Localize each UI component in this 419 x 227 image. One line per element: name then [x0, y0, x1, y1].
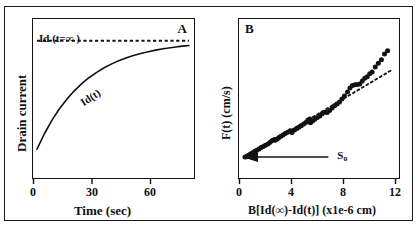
panel-b-letter: B — [245, 21, 254, 37]
s0-arrow — [242, 152, 328, 162]
scatter-point — [342, 93, 347, 98]
panel-b-xaxis-title: B[Id(∞)-Id(t)] (x1e-6 cm) — [205, 203, 419, 218]
scatter-point — [385, 48, 390, 53]
scatter-point — [370, 69, 375, 74]
asymptote-label: Id (t=∞ ) — [39, 32, 80, 44]
panel-a-plot-frame: A Id(t) Id (t=∞ ) — [32, 18, 195, 179]
panel-b-xtick-marks — [238, 179, 400, 185]
panel-b-xtick-12: 12 — [384, 185, 406, 200]
panel-b-plot-canvas — [239, 19, 398, 177]
scatter-point — [379, 57, 384, 62]
panel-a-xtick-0: 0 — [22, 185, 44, 200]
s0-label-subscript: o — [343, 154, 347, 163]
panel-a-xaxis-title: Time (sec) — [0, 203, 205, 219]
panel-b-yaxis-title: F(t) (cm/s) — [219, 86, 234, 140]
drain-current-curve — [37, 45, 189, 149]
panel-b: B So 0 4 8 12 B[Id(∞)- — [205, 0, 419, 227]
figure-root: A Id(t) Id (t=∞ ) 0 30 60 Time (sec) Dra… — [0, 0, 419, 227]
panel-a: A Id(t) Id (t=∞ ) 0 30 60 Time (sec) Dra… — [0, 0, 205, 227]
panel-b-plot-frame: B So — [238, 18, 400, 179]
panel-a-yaxis-title: Drain current — [14, 75, 30, 152]
s0-arrow-label: So — [337, 149, 347, 163]
panel-b-xtick-4: 4 — [280, 185, 302, 200]
panel-a-letter: A — [178, 21, 187, 37]
panel-a-xtick-30: 30 — [81, 185, 103, 200]
panel-b-xtick-0: 0 — [228, 185, 250, 200]
panel-a-xtick-marks — [32, 179, 195, 185]
panel-b-xtick-8: 8 — [332, 185, 354, 200]
scatter-points-group — [243, 48, 391, 159]
panel-a-xtick-60: 60 — [139, 185, 161, 200]
